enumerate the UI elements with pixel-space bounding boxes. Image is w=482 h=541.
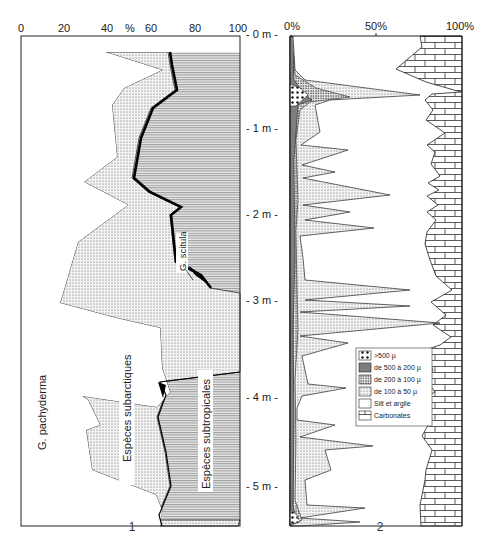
label-g-scitula: G. scitula: [177, 231, 188, 271]
figure-1-chart: 0 20 40 % 60 80 100 G. pachyderma Espèce…: [18, 22, 247, 534]
depth-tick-1m: - 1 m -: [246, 122, 278, 134]
label-especes-subtropicales: Espèces subtropicales: [200, 378, 212, 489]
label-g-pachyderma: G. pachyderma: [36, 374, 48, 450]
fig1-x-tick-40: 40: [101, 22, 113, 34]
legend-swatch-medium: [359, 375, 371, 384]
legend-swatch-dense: [359, 363, 371, 372]
legend-swatch-brick: [359, 411, 371, 420]
legend-item-500-200: de 500 à 200 µ: [359, 363, 421, 372]
legend-item-100-50: de 100 à 50 µ: [359, 387, 417, 396]
depth-tick-4m: - 4 m -: [246, 391, 278, 403]
legend-swatch-blank: [359, 399, 371, 408]
legend-label-500-200: de 500 à 200 µ: [374, 364, 421, 372]
figure-2-number: 2: [377, 520, 384, 534]
fig2-x-tick-100: 100%: [446, 20, 474, 32]
legend-label-gt500: >500 µ: [374, 352, 396, 360]
legend-item-carbonates: Carbonates: [359, 411, 411, 420]
figure-1-number: 1: [129, 520, 136, 534]
depth-tick-3m: - 3 m -: [246, 294, 278, 306]
fig2-legend: >500 µ de 500 à 200 µ de 200 à 100 µ de …: [356, 348, 432, 426]
depth-tick-5m: - 5 m -: [246, 480, 278, 492]
fig1-x-axis-title: %: [125, 22, 135, 34]
legend-label-silt: Silt et argile: [374, 400, 411, 408]
legend-label-100-50: de 100 à 50 µ: [374, 388, 417, 396]
fig1-x-tick-60: 60: [145, 22, 157, 34]
fig2-x-tick-50: 50%: [365, 20, 387, 32]
figure-2-chart: 0% 50% 100% >500 µ de 5: [284, 20, 474, 534]
legend-swatch-fine: [359, 387, 371, 396]
depth-tick-0m: - 0 m -: [246, 28, 278, 40]
fig2-area-carbonates: [396, 36, 462, 526]
fig2-x-tick-0: 0%: [284, 20, 300, 32]
fig1-x-tick-80: 80: [189, 22, 201, 34]
fig1-x-tick-0: 0: [18, 22, 24, 34]
label-especes-subarctiques: Espèces subarctiques: [121, 354, 133, 462]
legend-swatch-coarse: [359, 351, 371, 360]
depth-tick-2m: - 2 m -: [246, 208, 278, 220]
fig1-x-tick-100: 100: [229, 22, 247, 34]
legend-label-200-100: de 200 à 100 µ: [374, 376, 421, 384]
fig1-x-tick-20: 20: [58, 22, 70, 34]
legend-item-gt500: >500 µ: [359, 351, 396, 360]
depth-axis: - 0 m - - 1 m - - 2 m - - 3 m - - 4 m - …: [246, 28, 278, 492]
legend-item-200-100: de 200 à 100 µ: [359, 375, 421, 384]
legend-label-carbonates: Carbonates: [374, 412, 411, 419]
figure-canvas: 0 20 40 % 60 80 100 G. pachyderma Espèce…: [0, 0, 482, 541]
fig2-area-100-50: [290, 36, 440, 526]
legend-item-silt: Silt et argile: [359, 399, 411, 408]
